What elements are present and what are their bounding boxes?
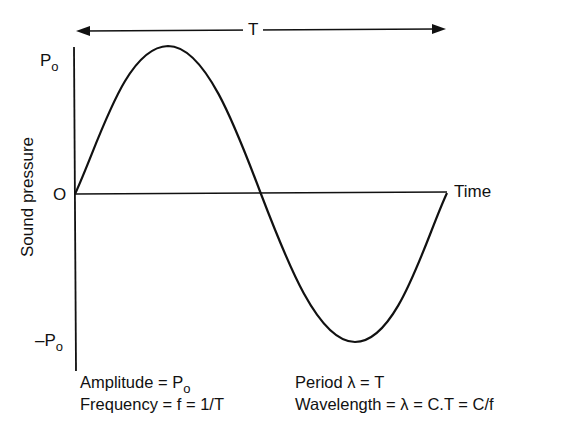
caption-wavelength: Wavelength = λ = C.T = C/f	[295, 394, 494, 414]
y-axis	[74, 47, 76, 371]
caption-amplitude: Amplitude = Po	[80, 372, 190, 394]
caption-frequency: Frequency = f = 1/T	[80, 394, 224, 414]
y-tick-bottom: –Po	[35, 332, 63, 349]
x-axis-label: Time	[454, 183, 491, 200]
period-arrow-label: T	[243, 20, 263, 40]
y-tick-origin: O	[53, 186, 66, 203]
y-axis-label: Sound pressure	[18, 137, 38, 257]
waveform-diagram	[0, 0, 573, 433]
y-tick-top: Po	[40, 52, 59, 69]
caption-period: Period λ = T	[295, 372, 384, 392]
